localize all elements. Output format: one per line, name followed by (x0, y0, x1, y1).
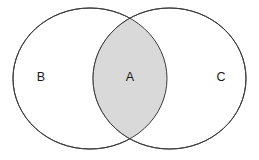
venn-diagram-canvas: B A C (0, 0, 259, 160)
venn-diagram-figure: B A C (0, 0, 259, 160)
set-label-c: C (216, 70, 225, 84)
set-label-b: B (37, 70, 45, 84)
intersection-label-a: A (126, 70, 135, 84)
